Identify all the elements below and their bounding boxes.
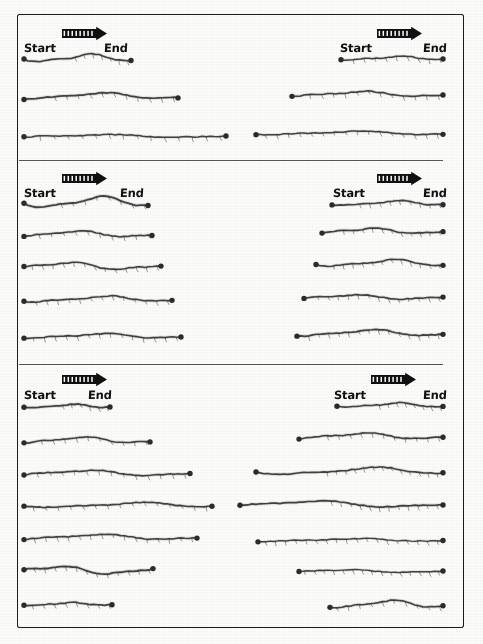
trajectory-trace <box>327 600 445 611</box>
end-dot <box>440 229 445 234</box>
arrow-stripe <box>402 176 404 181</box>
trajectory-trace <box>294 329 445 340</box>
start-dot <box>301 296 306 301</box>
start-label: Start <box>24 186 56 200</box>
trajectory-trace <box>21 93 180 103</box>
panel-direction-arrow <box>62 374 107 385</box>
start-dot <box>21 97 26 102</box>
arrow-stripe <box>64 176 66 181</box>
arrow-stripe <box>377 377 379 382</box>
arrow-stripe <box>400 377 402 382</box>
trajectory-panel <box>21 196 183 342</box>
start-dot <box>21 56 26 61</box>
arrow-stripe <box>383 31 385 36</box>
start-dot <box>296 569 301 574</box>
arrow-stripe <box>406 31 408 36</box>
arrow-stripe <box>390 31 392 36</box>
trajectory-trace <box>296 433 445 442</box>
arrow-stripe <box>383 176 385 181</box>
end-dot <box>440 92 445 97</box>
end-dot <box>440 332 445 337</box>
start-dot <box>21 603 26 608</box>
arrow-stripe <box>402 31 404 36</box>
trajectory-panel <box>237 402 445 611</box>
arrow-stripe <box>72 31 74 36</box>
arrow-stripe <box>79 31 81 36</box>
trace-path <box>299 433 443 439</box>
start-dot <box>21 264 26 269</box>
end-dot <box>440 263 445 268</box>
end-dot <box>107 404 112 409</box>
arrow-stripe <box>379 31 381 36</box>
trajectory-panel <box>21 53 228 141</box>
panel-direction-arrow <box>371 374 416 385</box>
start-dot <box>327 605 332 610</box>
arrow-stripe <box>387 31 389 36</box>
panel-direction-arrow <box>377 28 422 39</box>
arrow-stripe <box>396 377 398 382</box>
direction-arrow-icon <box>377 28 422 39</box>
panel-direction-arrow <box>62 28 107 39</box>
end-dot <box>109 602 114 607</box>
end-dot <box>147 439 152 444</box>
arrow-stripe <box>72 377 74 382</box>
arrow-stripe <box>75 377 77 382</box>
panel-direction-arrow <box>377 173 422 184</box>
trajectory-trace <box>334 402 445 411</box>
end-dot <box>149 233 154 238</box>
trajectory-trace <box>237 501 445 512</box>
trajectory-trace <box>21 470 192 480</box>
direction-arrow-icon <box>62 173 107 184</box>
arrow-stripe <box>390 176 392 181</box>
arrow-stripe <box>83 377 85 382</box>
arrow-stripe <box>79 377 81 382</box>
start-dot <box>21 503 26 508</box>
end-dot <box>440 132 445 137</box>
end-dot <box>440 603 445 608</box>
end-label: End <box>104 41 128 55</box>
trajectory-trace <box>319 228 445 237</box>
end-dot <box>440 56 445 61</box>
direction-arrow-icon <box>62 374 107 385</box>
start-label: Start <box>24 388 56 402</box>
start-dot <box>21 335 26 340</box>
trajectory-trace <box>338 56 445 64</box>
end-dot <box>187 471 192 476</box>
start-dot <box>21 134 26 139</box>
arrow-stripe <box>64 31 66 36</box>
trajectory-trace <box>301 294 445 303</box>
start-dot <box>21 440 26 445</box>
trace-tick-mark <box>353 264 354 268</box>
start-dot <box>338 57 343 62</box>
end-dot <box>150 566 155 571</box>
end-dot <box>440 202 445 207</box>
arrow-stripe <box>64 377 66 382</box>
trace-path <box>24 296 172 303</box>
end-dot <box>440 470 445 475</box>
end-dot <box>440 404 445 409</box>
trajectory-trace <box>21 602 114 609</box>
end-dot <box>440 435 445 440</box>
start-dot <box>313 262 318 267</box>
end-dot <box>440 538 445 543</box>
arrow-stripe <box>83 176 85 181</box>
trajectory-traces-layer <box>0 0 483 644</box>
direction-arrow-icon <box>62 28 107 39</box>
end-dot <box>194 535 199 540</box>
start-dot <box>255 539 260 544</box>
start-label: Start <box>24 41 56 55</box>
end-dot <box>440 502 445 507</box>
start-dot <box>21 299 26 304</box>
trajectory-trace <box>21 404 112 412</box>
end-dot <box>145 203 150 208</box>
arrow-stripe <box>381 377 383 382</box>
direction-arrow-icon <box>377 173 422 184</box>
arrow-stripe <box>91 31 93 36</box>
trajectory-panel <box>294 200 445 340</box>
arrow-stripe <box>87 176 89 181</box>
arrow-stripe <box>75 176 77 181</box>
trajectory-trace <box>21 231 154 241</box>
arrow-stripe <box>394 31 396 36</box>
trajectory-trace <box>313 259 445 269</box>
start-dot <box>237 503 242 508</box>
